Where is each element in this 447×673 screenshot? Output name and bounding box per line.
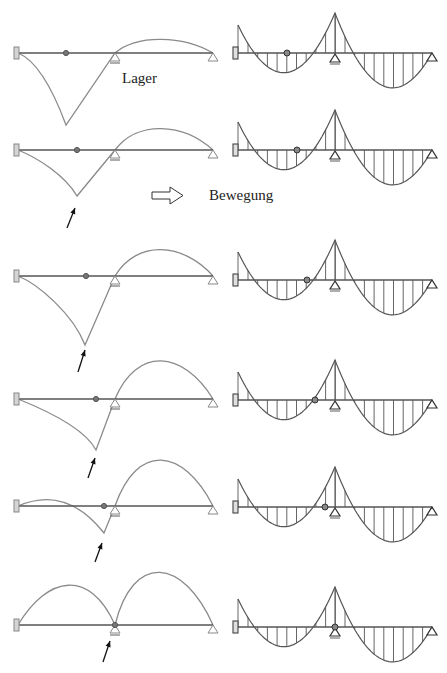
moment-diagram-panel — [233, 467, 437, 542]
triangle-support-icon — [427, 150, 437, 158]
influence-lines-column — [14, 39, 218, 662]
triangle-support-icon — [110, 150, 120, 160]
influence-line-curve — [18, 572, 213, 625]
moment-diagram-panel — [233, 360, 437, 435]
triangle-support-icon — [208, 399, 218, 407]
moment-diagrams-column — [233, 13, 437, 662]
moment-diagram-panel — [233, 587, 437, 662]
influence-line-panel — [14, 129, 218, 228]
influence-line-panel — [14, 39, 218, 125]
hollow-right-arrow-icon — [152, 187, 183, 204]
triangle-support-icon — [427, 53, 437, 61]
clamped-support-icon — [14, 144, 19, 156]
hinge-dot-icon — [322, 504, 328, 510]
hinge-dot-icon — [294, 147, 300, 153]
support-label: Lager — [122, 70, 157, 87]
hinge-dot-icon — [284, 50, 290, 56]
influence-line-curve — [18, 39, 213, 125]
hinge-dot-icon — [93, 396, 98, 401]
triangle-support-icon — [330, 281, 340, 291]
triangle-support-icon — [330, 401, 340, 411]
influence-line-panel — [14, 460, 218, 562]
clamped-support-icon — [14, 393, 19, 405]
diagonal-pointer-arrow-icon — [67, 208, 75, 228]
moment-diagram-panel — [233, 13, 437, 88]
triangle-support-icon — [208, 150, 218, 158]
hinge-dot-icon — [112, 622, 117, 627]
structural-diagram — [0, 0, 447, 673]
triangle-support-icon — [330, 151, 340, 161]
influence-line-panel — [14, 250, 218, 372]
triangle-support-icon — [110, 53, 120, 63]
clamped-support-icon — [233, 144, 238, 156]
diagonal-pointer-arrow-icon — [78, 350, 86, 372]
hinge-dot-icon — [304, 277, 310, 283]
motion-label: Bewegung — [209, 187, 273, 204]
hinge-dot-icon — [312, 397, 318, 403]
diagonal-pointer-arrow-icon — [103, 641, 111, 662]
triangle-support-icon — [427, 400, 437, 408]
triangle-support-icon — [330, 54, 340, 64]
triangle-support-icon — [110, 399, 120, 409]
triangle-support-icon — [208, 53, 218, 61]
hinge-dot-icon — [332, 624, 338, 630]
hinge-dot-icon — [83, 273, 88, 278]
triangle-support-icon — [208, 506, 218, 514]
clamped-support-icon — [14, 270, 19, 282]
influence-line-curve — [18, 460, 213, 533]
hinge-dot-icon — [74, 147, 79, 152]
influence-line-panel — [14, 572, 218, 662]
triangle-support-icon — [427, 627, 437, 635]
triangle-support-icon — [208, 276, 218, 284]
clamped-support-icon — [233, 47, 238, 59]
triangle-support-icon — [110, 506, 120, 516]
influence-line-curve — [18, 129, 213, 196]
hinge-dot-icon — [101, 503, 106, 508]
influence-line-curve — [18, 250, 213, 345]
triangle-support-icon — [427, 507, 437, 515]
triangle-support-icon — [208, 625, 218, 633]
triangle-support-icon — [110, 276, 120, 286]
clamped-support-icon — [233, 501, 238, 513]
moment-diagram-panel — [233, 110, 437, 185]
hinge-dot-icon — [63, 50, 68, 55]
influence-line-panel — [14, 361, 218, 478]
clamped-support-icon — [14, 47, 19, 59]
moment-diagram-panel — [233, 240, 437, 315]
diagonal-pointer-arrow-icon — [95, 543, 102, 562]
clamped-support-icon — [14, 619, 19, 631]
clamped-support-icon — [233, 394, 238, 406]
triangle-support-icon — [427, 280, 437, 288]
clamped-support-icon — [233, 621, 238, 633]
clamped-support-icon — [233, 274, 238, 286]
clamped-support-icon — [14, 500, 19, 512]
diagonal-pointer-arrow-icon — [88, 458, 95, 478]
triangle-support-icon — [330, 508, 340, 518]
